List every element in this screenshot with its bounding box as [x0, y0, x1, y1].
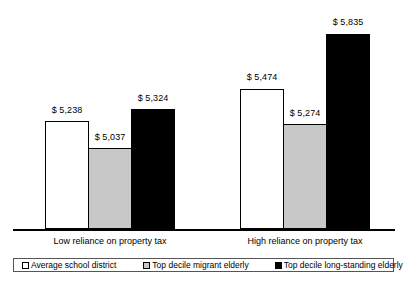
legend-label-top-decile-long-standing-elderly: Top decile long-standing elderly: [284, 260, 403, 270]
bar-chart: $ 5,238 $ 5,037 $ 5,324 $ 5,474 $ 5,274 …: [0, 0, 407, 283]
bar-value-high-average-school-district: $ 5,474: [234, 72, 290, 83]
legend-label-average-school-district: Average school district: [31, 260, 116, 270]
bar-value-low-top-decile-long-standing-elderly: $ 5,324: [125, 93, 181, 104]
bar-high-top-decile-migrant-elderly: [283, 124, 327, 229]
bar-value-low-average-school-district: $ 5,238: [39, 105, 95, 116]
category-label-high-reliance: High reliance on property tax: [225, 236, 385, 247]
legend-swatch-white-icon: [22, 262, 29, 269]
legend-swatch-black-icon: [275, 262, 282, 269]
bar-high-top-decile-long-standing-elderly: [326, 34, 370, 229]
plot-area: $ 5,238 $ 5,037 $ 5,324 $ 5,474 $ 5,274 …: [0, 0, 407, 232]
category-label-low-reliance: Low reliance on property tax: [30, 236, 190, 247]
legend-item-average-school-district: Average school district: [22, 259, 116, 271]
x-axis-line: [13, 229, 395, 231]
legend-item-top-decile-migrant-elderly: Top decile migrant elderly: [143, 259, 248, 271]
bar-value-high-top-decile-long-standing-elderly: $ 5,835: [320, 17, 376, 28]
bar-value-high-top-decile-migrant-elderly: $ 5,274: [277, 108, 333, 119]
legend-swatch-gray-icon: [143, 262, 150, 269]
bar-low-top-decile-migrant-elderly: [88, 148, 132, 229]
legend-item-top-decile-long-standing-elderly: Top decile long-standing elderly: [275, 259, 403, 271]
legend-label-top-decile-migrant-elderly: Top decile migrant elderly: [152, 260, 248, 270]
bar-value-low-top-decile-migrant-elderly: $ 5,037: [82, 132, 138, 143]
chart-legend: Average school district Top decile migra…: [13, 258, 394, 272]
bar-low-top-decile-long-standing-elderly: [131, 109, 175, 229]
